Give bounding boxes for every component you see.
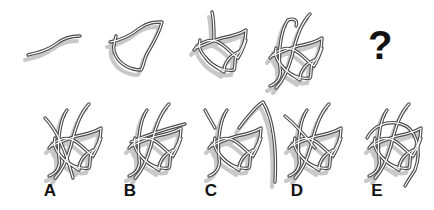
option-label-d[interactable]: D <box>282 182 312 199</box>
option-label-c[interactable]: C <box>196 182 226 199</box>
option-a-figure[interactable] <box>0 0 434 210</box>
option-label-a[interactable]: A <box>35 182 65 199</box>
option-label-e[interactable]: E <box>362 182 392 199</box>
option-label-b[interactable]: B <box>115 182 145 199</box>
option-figures <box>0 0 434 210</box>
